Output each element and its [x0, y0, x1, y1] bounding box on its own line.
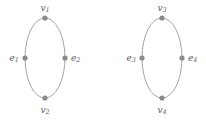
- label-v1-sub: 1: [45, 6, 49, 14]
- vertex-e2: [62, 55, 67, 60]
- label-v2: v2: [40, 105, 49, 116]
- vertex-v1: [42, 15, 47, 20]
- graph-figure: v1 v2 e1 e2 v3 v4 e3 e4: [0, 0, 206, 120]
- label-e4-sub: 4: [192, 56, 197, 64]
- label-e3: e3: [127, 53, 136, 64]
- label-e2-sub: 2: [75, 56, 80, 64]
- label-e2: e2: [71, 53, 80, 64]
- label-v4-sub: 4: [161, 108, 166, 116]
- right-graph-ellipse: [142, 18, 182, 98]
- right-graph: v3 v4 e3 e4: [127, 3, 198, 116]
- label-v3-sub: 3: [162, 6, 166, 14]
- vertex-v3: [159, 15, 164, 20]
- label-v2-sub: 2: [44, 108, 49, 116]
- label-e3-sub: 3: [132, 56, 136, 64]
- label-v3: v3: [157, 3, 166, 14]
- vertex-v4: [159, 95, 164, 100]
- vertex-v2: [42, 95, 47, 100]
- left-graph-ellipse: [25, 18, 65, 98]
- label-v4: v4: [157, 105, 166, 116]
- vertex-e4: [179, 55, 184, 60]
- label-e1-sub: 1: [15, 56, 19, 64]
- label-e1: e1: [10, 53, 19, 64]
- left-graph: v1 v2 e1 e2: [10, 3, 81, 116]
- label-v1: v1: [40, 3, 49, 14]
- vertex-e3: [139, 55, 144, 60]
- vertex-e1: [22, 55, 27, 60]
- label-e4: e4: [188, 53, 197, 64]
